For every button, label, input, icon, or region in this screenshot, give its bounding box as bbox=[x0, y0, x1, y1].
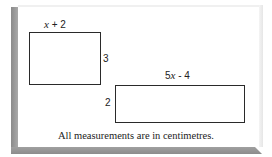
label-rest: + 2 bbox=[49, 19, 66, 30]
rectangle-b-height-label: 2 bbox=[105, 97, 111, 108]
caption: All measurements are in centimetres. bbox=[0, 130, 272, 141]
frame-bottom-bevel bbox=[11, 147, 262, 154]
rectangle-a-height-label: 3 bbox=[103, 53, 109, 64]
rectangle-b bbox=[115, 85, 245, 123]
rectangle-a bbox=[29, 32, 101, 85]
frame-right-edge bbox=[259, 5, 263, 147]
rectangle-b-width-label: 5x - 4 bbox=[165, 69, 190, 81]
rectangle-a-width-label: x + 2 bbox=[44, 18, 66, 30]
label-rest: - 4 bbox=[175, 70, 189, 81]
frame-top-edge bbox=[18, 5, 263, 7]
